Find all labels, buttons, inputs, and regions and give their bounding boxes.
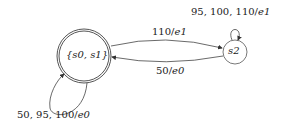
label-input: 95, 100, 110/: [191, 6, 258, 17]
transition-label-s01-loop: 50, 95, 100/e0: [17, 109, 90, 120]
label-output: e0: [172, 65, 184, 76]
label-output: e1: [174, 26, 186, 37]
transition-s2-self-loop: [231, 30, 239, 41]
transition-s01-to-s2: [111, 40, 222, 48]
state-s01-label: {s0, s1}: [66, 49, 108, 60]
transition-label-s2-to-s01: 50/e0: [156, 65, 184, 76]
label-output: e1: [258, 6, 270, 17]
transition-label-s01-to-s2: 110/e1: [152, 26, 187, 37]
label-output: e0: [78, 109, 90, 120]
state-s2-label: s2: [228, 45, 240, 56]
transition-s2-to-s01: [112, 56, 223, 62]
label-input: 50, 95, 100/: [17, 109, 78, 120]
label-input: 110/: [152, 26, 174, 37]
transition-label-s2-loop: 95, 100, 110/e1: [191, 6, 270, 17]
label-input: 50/: [156, 65, 172, 76]
